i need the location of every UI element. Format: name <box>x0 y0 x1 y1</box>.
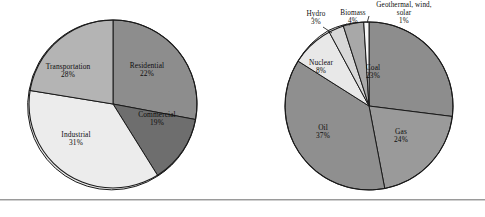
pie-slice-residential[interactable] <box>113 20 197 120</box>
bottom-divider-rule <box>0 199 485 201</box>
pie-slice-coal[interactable] <box>369 22 453 116</box>
pie-chart-energy-by-sector: Residential 22% Commercial 19% Industria… <box>0 0 242 200</box>
pie-slice-transportation[interactable] <box>29 20 113 104</box>
pie-chart-energy-by-source: Coal 23% Gas 24% Oil 37% Nuclear 8% Hydr… <box>243 0 485 200</box>
pie-svg-sector <box>0 0 242 200</box>
figure-area: Residential 22% Commercial 19% Industria… <box>0 0 485 217</box>
pie-svg-source <box>243 0 485 200</box>
